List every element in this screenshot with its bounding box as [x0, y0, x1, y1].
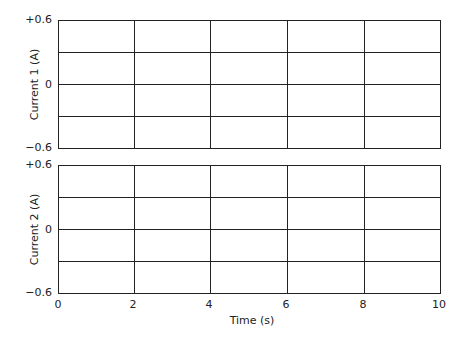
top-ytick-max: +0.6	[12, 13, 52, 26]
top-y-axis-title: Current 1 (A)	[28, 35, 41, 135]
xtick-8: 8	[348, 298, 378, 311]
xtick-2: 2	[118, 298, 148, 311]
xtick-10: 10	[424, 298, 454, 311]
gridline-y-0.3	[59, 52, 440, 53]
gridline-y-0	[59, 84, 440, 85]
xtick-0: 0	[43, 298, 73, 311]
bottom-y-axis-title: Current 2 (A)	[28, 180, 41, 280]
gridline-y-0	[59, 229, 440, 230]
bottom-ytick-max: +0.6	[12, 158, 52, 171]
xtick-4: 4	[194, 298, 224, 311]
gridline-y-0.3	[59, 197, 440, 198]
current-1-plot	[58, 20, 441, 149]
top-ytick-min: −0.6	[12, 141, 52, 154]
gridline-y-neg0.3	[59, 261, 440, 262]
gridline-y-neg0.3	[59, 116, 440, 117]
xtick-6: 6	[271, 298, 301, 311]
x-axis-title: Time (s)	[212, 314, 292, 327]
current-2-plot	[58, 165, 441, 294]
